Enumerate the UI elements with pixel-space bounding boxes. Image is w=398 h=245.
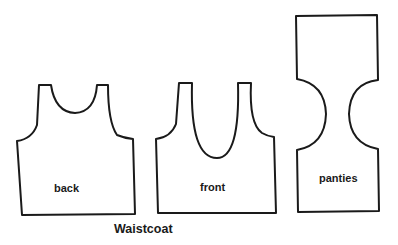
front-label: front <box>200 181 225 193</box>
back-label: back <box>54 182 79 194</box>
back-piece-outline <box>17 85 135 215</box>
front-piece-outline <box>156 83 276 213</box>
pattern-diagram <box>0 0 398 245</box>
diagram-title: Waistcoat <box>114 222 173 236</box>
panties-label: panties <box>319 172 358 184</box>
